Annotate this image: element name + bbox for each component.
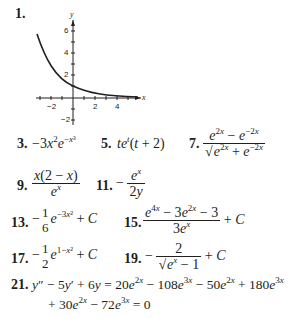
answer-number-17: 17. [11, 251, 29, 267]
answer-11: − ex2y [116, 168, 145, 199]
answer-number-15: 15. [124, 215, 142, 231]
answer-21-line2: + 30e2x − 72e3x = 0 [48, 297, 151, 313]
x-tick-2: 2 [93, 102, 97, 111]
answer-9: x(2 − x)ex [32, 168, 80, 199]
answer-number-7: 7. [189, 136, 200, 152]
y-tick-2: 2 [64, 70, 68, 79]
y-tick-4: 4 [64, 48, 68, 57]
answer-15: e4x − 3e2x − 33ex + C [143, 205, 245, 236]
x-tick-4: 4 [115, 102, 119, 111]
answer-21-line1: y″ − 5y′ + 6y = 20e2x − 108e3x − 50e2x +… [32, 277, 284, 293]
answer-number-21: 21. [11, 277, 29, 293]
answer-number-5: 5. [101, 136, 112, 152]
answer-number-9: 9. [17, 178, 28, 194]
y-axis-label: y [70, 10, 74, 19]
x-axis-label: x [142, 93, 146, 102]
answer-number-19: 19. [124, 251, 142, 267]
answer-5: tet(t + 2) [117, 136, 165, 152]
answer-number-3: 3. [17, 136, 28, 152]
y-tick-neg2: −2 [61, 115, 70, 124]
answer-number-13: 13. [11, 215, 29, 231]
x-tick-neg2: −2 [47, 102, 56, 111]
answer-17: −12e1−x² + C [32, 241, 97, 271]
answer-3: −3x2e−x³ [32, 136, 76, 152]
exponential-decay-graph [0, 0, 150, 130]
answer-7: e2x − e−2x√e2x + e−2x [203, 128, 265, 159]
answer-19: − 2√ex − 1 + C [145, 241, 225, 272]
y-tick-6: 6 [64, 26, 68, 35]
answer-13: −16e−3x² + C [32, 205, 97, 235]
answer-number-11: 11. [96, 178, 113, 194]
